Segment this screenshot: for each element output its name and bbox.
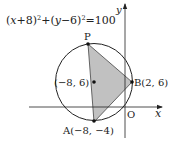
point-a-label: A(−8, −4) <box>62 125 114 136</box>
point-p <box>86 42 90 46</box>
x-axis-label: x <box>155 107 162 120</box>
circle-triangle-diagram: (x+8)2+(y−6)2=100 y x O P (−8, 6) B(2, 6… <box>0 0 176 145</box>
origin-label: O <box>127 109 135 120</box>
center-label: (−8, 6) <box>54 77 89 88</box>
point-b-label: B(2, 6) <box>134 77 168 88</box>
point-center <box>92 80 96 84</box>
circle-equation: (x+8)2+(y−6)2=100 <box>6 14 116 27</box>
point-a <box>92 119 96 123</box>
y-axis-label: y <box>115 4 122 15</box>
point-p-label: P <box>84 31 91 42</box>
